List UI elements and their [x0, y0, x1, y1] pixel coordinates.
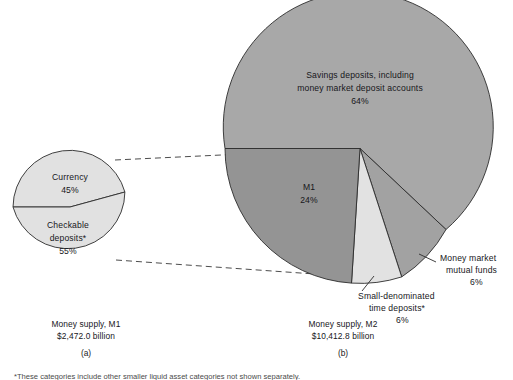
label-currency-percent: 45% — [61, 185, 79, 195]
caption-right-tag: (b) — [338, 348, 348, 358]
caption-right-title: Money supply, M2 — [309, 319, 378, 329]
caption-right-amount: $10,412.8 billion — [312, 331, 375, 341]
label-time-deposits-line2: time deposits* — [369, 303, 426, 313]
label-mmmf-percent: 6% — [470, 277, 483, 287]
label-currency-name: Currency — [52, 172, 89, 182]
pie-charts-svg: Savings deposits, including money market… — [0, 0, 513, 380]
label-time-deposits-percent: 6% — [396, 315, 409, 325]
caption-left: Money supply, M1 $2,472.0 billion (a) — [52, 319, 121, 358]
label-savings-line2: money market deposit accounts — [297, 83, 423, 93]
label-mmmf-line2: mutual funds — [446, 265, 497, 275]
label-savings-percent: 64% — [351, 96, 369, 106]
label-checkable-deposits-line1: Checkable — [47, 220, 89, 230]
caption-right: Money supply, M2 $10,412.8 billion (b) — [309, 319, 378, 358]
caption-left-amount: $2,472.0 billion — [57, 331, 115, 341]
pie-chart-m1: Currency 45% Checkable deposits* 55% — [13, 150, 125, 256]
money-supply-figure: Savings deposits, including money market… — [0, 0, 513, 380]
label-checkable-deposits-percent: 55% — [59, 246, 77, 256]
footnote-text: *These categories include other smaller … — [14, 372, 300, 380]
label-checkable-deposits-line2: deposits* — [50, 233, 87, 243]
caption-left-title: Money supply, M1 — [52, 319, 121, 329]
caption-left-tag: (a) — [81, 348, 91, 358]
footnote-row: *These categories include other smaller … — [14, 372, 300, 380]
label-mmmf-line1: Money market — [440, 253, 497, 263]
label-savings-line1: Savings deposits, including — [306, 70, 414, 80]
label-m1-slice-name: M1 — [303, 182, 315, 192]
label-m1-slice-percent: 24% — [300, 195, 318, 205]
slice-m1[interactable] — [225, 149, 360, 284]
pie-chart-m2: Savings deposits, including money market… — [223, 0, 497, 325]
label-time-deposits-line1: Small-denominated — [358, 291, 435, 301]
